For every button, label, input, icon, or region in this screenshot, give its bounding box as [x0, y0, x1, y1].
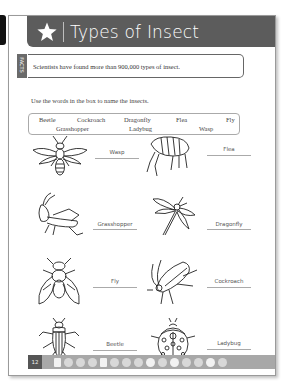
insect-item-dragonfly: Dragonfly [143, 191, 263, 246]
insect-label: Grasshopper [93, 221, 137, 227]
word-bank-item: Dragonfly [124, 116, 151, 123]
facts-tab-label: FACTS [19, 54, 25, 76]
answer-line [93, 229, 137, 230]
worksheet-page: Types of Insect FACTS Scientists have fo… [8, 15, 276, 376]
answer-line [207, 349, 251, 350]
plane-icon [170, 358, 179, 367]
answer-line [93, 350, 137, 351]
page-title: Types of Insect [70, 22, 199, 42]
word-bank-item: Flea [176, 116, 187, 123]
answer-line [207, 155, 251, 156]
word-bank-item: Grasshopper [56, 125, 89, 132]
flea-icon [143, 134, 203, 184]
thermometer-icon [54, 358, 61, 367]
fish-icon [76, 358, 85, 367]
moon-icon [122, 358, 131, 367]
answer-line [95, 158, 139, 159]
facts-box: Scientists have found more than 900,000 … [28, 54, 244, 78]
tree-icon [158, 358, 167, 367]
bird-icon [88, 358, 97, 367]
answer-line [207, 229, 251, 230]
leaf-icon [64, 358, 73, 367]
page-footer: 12 [28, 355, 275, 369]
insect-label: Beetle [93, 341, 137, 347]
insect-label: Ladybug [207, 340, 251, 346]
word-bank-item: Beetle [39, 116, 56, 123]
facts-text: Scientists have found more than 900,000 … [33, 63, 180, 70]
answer-line [207, 287, 251, 288]
grasshopper-icon [29, 191, 89, 241]
aircraft-icon [206, 358, 215, 367]
butterfly-icon [134, 358, 143, 367]
word-bank-item: Fly [226, 116, 235, 123]
word-bank-item: Cockroach [77, 116, 105, 123]
planet-icon [182, 358, 191, 367]
cloud-icon [110, 358, 119, 367]
word-bank-box: Beetle Cockroach Dragonfly Flea Fly Gras… [28, 113, 240, 135]
insect-item-fly: Fly [29, 256, 149, 311]
insect-item-flea: Flea [143, 134, 263, 189]
page-number: 12 [28, 355, 42, 369]
insect-item-wasp: Wasp [29, 134, 149, 189]
insect-label: Fly [93, 278, 137, 284]
star-icon [36, 21, 58, 43]
insect-item-cockroach: Cockroach [143, 256, 263, 311]
insect-label: Wasp [95, 149, 139, 155]
insect-label: Flea [207, 146, 251, 152]
sun-icon [146, 358, 155, 367]
header-divider [63, 22, 64, 42]
answer-line [93, 287, 137, 288]
insect-label: Dragonfly [207, 221, 251, 227]
fly-icon [29, 256, 89, 311]
flask-icon [100, 358, 107, 367]
dragonfly-icon [143, 191, 203, 246]
word-bank-item: Wasp [199, 125, 213, 132]
black-edge-tab [0, 15, 6, 45]
wasp-icon [29, 134, 89, 184]
insect-label: Cockroach [207, 278, 251, 284]
page-header: Types of Insect [27, 16, 275, 47]
facts-tab: FACTS [17, 54, 27, 78]
instruction-text: Use the words in the box to name the ins… [31, 97, 149, 104]
word-bank-item: Ladybug [129, 125, 152, 132]
leaf-icon [194, 358, 203, 367]
insect-item-grasshopper: Grasshopper [29, 191, 149, 246]
cockroach-icon [143, 256, 203, 311]
footer-icon-strip [54, 358, 227, 367]
snail-icon [218, 358, 227, 367]
